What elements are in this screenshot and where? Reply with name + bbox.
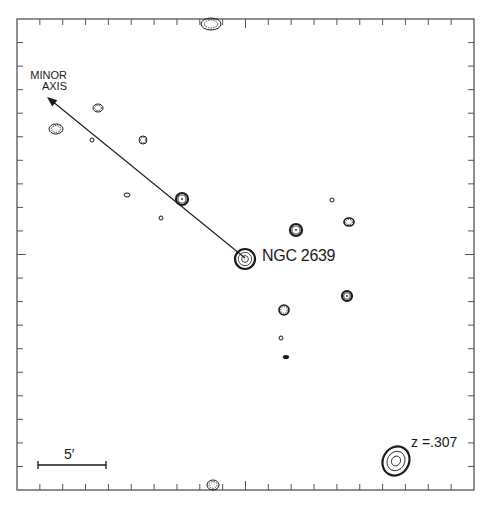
map-frame [17,19,474,490]
quasar-z0307 [377,442,415,481]
scale-bar [38,461,106,469]
minor-axis-arrow [47,97,245,258]
frame-border [17,19,474,490]
minor-axis-label: MINOR AXIS [27,70,67,92]
source-faint-1 [90,138,94,142]
source-lower-dot [284,356,288,358]
source-faint-2 [124,193,130,197]
source-bottom-edge [207,480,219,490]
source-lower-faint [279,336,283,340]
source-top-edge [201,18,221,30]
scale-bar-label: 5′ [64,447,74,461]
source-upper-left-2 [93,104,103,112]
source-left-3 [139,136,147,144]
minor-axis-label-line2: AXIS [27,81,67,92]
source-right-1 [290,224,302,236]
arrowhead-icon [47,97,57,106]
sources [49,18,415,490]
source-faint-3 [159,216,163,220]
arrow-shaft [52,101,245,258]
source-right-3 [342,291,352,301]
source-upper-left-1 [49,124,63,134]
galaxy-label: NGC 2639 [262,248,335,264]
redshift-label: z =.307 [411,435,457,449]
contour-map [0,0,487,509]
source-right-faint [330,198,334,202]
axis-ticks [17,19,474,490]
source-lower-1 [279,305,289,315]
source-right-2 [344,218,354,226]
